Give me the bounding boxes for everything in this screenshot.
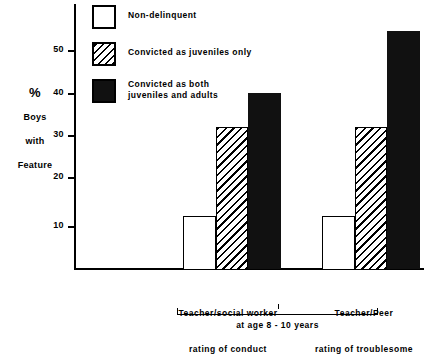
open-square-swatch: [92, 5, 116, 29]
bracket-center-tick: [278, 304, 280, 309]
bar-group1-juveniles-only: [216, 127, 248, 269]
hatched-square-swatch: [92, 42, 116, 66]
x-axis-group-label-1-line2: rating of conduct: [158, 343, 298, 355]
age-range-bracket: [177, 308, 378, 315]
bar-group2-juveniles-only: [355, 127, 387, 269]
y-axis-title-percent: %: [4, 86, 66, 99]
bar-group2-juveniles-and-adults: [387, 31, 420, 269]
age-range-caption: at age 8 - 10 years: [177, 320, 378, 330]
bar-group1-non-delinquent: [183, 216, 216, 269]
legend-label-non-delinquent: Non-delinquent: [128, 10, 197, 21]
x-axis-group-label-2-line2: rating of troublesome: [300, 343, 428, 355]
legend-label-juveniles-and-adults: Convicted as both juveniles and adults: [128, 79, 218, 101]
y-tick-10: [68, 226, 75, 228]
legend-label-juveniles-only: Convicted as juveniles only: [128, 47, 252, 58]
y-axis-line: [74, 4, 76, 270]
y-tick-20: [68, 177, 75, 179]
solid-square-swatch: [92, 79, 116, 103]
y-axis-title-with: with: [4, 137, 66, 146]
y-tick-50: [68, 50, 75, 52]
y-tick-40: [68, 93, 75, 95]
y-tick-30: [68, 135, 75, 137]
y-tick-label-20: 20: [38, 172, 64, 181]
y-tick-label-10: 10: [38, 221, 64, 230]
bar-group1-juveniles-and-adults: [248, 93, 281, 269]
y-axis-title-boys: Boys: [4, 113, 66, 122]
y-axis-title-feature: Feature: [4, 161, 66, 170]
bar-group2-non-delinquent: [322, 216, 355, 269]
y-tick-label-50: 50: [38, 45, 64, 54]
